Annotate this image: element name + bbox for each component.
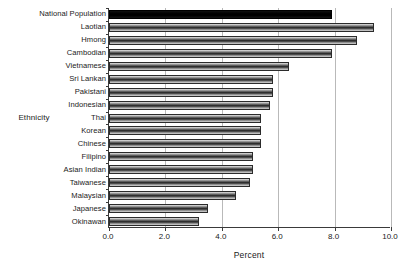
x-tick-mark	[391, 227, 392, 231]
bar	[109, 204, 208, 213]
bar	[109, 114, 261, 123]
y-tick-mark	[106, 150, 109, 151]
x-tick-mark	[335, 227, 336, 231]
x-tick-label: 4.0	[201, 232, 241, 241]
category-label-column: National PopulationLaotianHmongCambodian…	[10, 8, 106, 228]
y-tick-mark	[106, 34, 109, 35]
bar	[109, 88, 273, 97]
x-tick-mark	[278, 227, 279, 231]
x-tick-mark	[222, 227, 223, 231]
bar	[109, 75, 273, 84]
y-tick-mark	[106, 215, 109, 216]
category-label: Japanese	[10, 205, 106, 213]
category-label: Taiwanese	[10, 179, 106, 187]
x-tick-label: 2.0	[144, 232, 184, 241]
bar-chart: Ethnicity National PopulationLaotianHmon…	[0, 0, 413, 277]
bar	[109, 217, 199, 226]
y-tick-mark	[106, 163, 109, 164]
bar	[109, 36, 357, 45]
bar	[109, 10, 332, 19]
bar	[109, 23, 374, 32]
category-label: Hmong	[10, 36, 106, 44]
category-label: Malaysian	[10, 192, 106, 200]
bar	[109, 126, 261, 135]
x-tick-label: 10.0	[370, 232, 410, 241]
x-tick-mark	[165, 227, 166, 231]
bar	[109, 152, 253, 161]
bar	[109, 62, 289, 71]
category-label: National Population	[10, 10, 106, 18]
x-tick-label: 0.0	[88, 232, 128, 241]
y-tick-mark	[106, 137, 109, 138]
category-label: Filipino	[10, 153, 106, 161]
y-tick-mark	[106, 124, 109, 125]
category-label: Vietnamese	[10, 62, 106, 70]
bar	[109, 165, 253, 174]
y-tick-mark	[106, 99, 109, 100]
category-label: Laotian	[10, 23, 106, 31]
y-tick-mark	[106, 47, 109, 48]
bar	[109, 178, 250, 187]
category-label: Cambodian	[10, 49, 106, 57]
y-tick-mark	[106, 112, 109, 113]
category-label: Pakistani	[10, 88, 106, 96]
bar	[109, 191, 236, 200]
category-label: Thai	[10, 114, 106, 122]
y-tick-mark	[106, 86, 109, 87]
category-label: Asian Indian	[10, 166, 106, 174]
category-label: Chinese	[10, 140, 106, 148]
x-tick-label: 6.0	[257, 232, 297, 241]
y-tick-mark	[106, 60, 109, 61]
y-tick-mark	[106, 73, 109, 74]
bar	[109, 101, 270, 110]
bar	[109, 139, 261, 148]
y-tick-mark	[106, 176, 109, 177]
x-tick-mark	[109, 227, 110, 231]
category-label: Okinawan	[10, 218, 106, 226]
y-tick-mark	[106, 21, 109, 22]
gridline	[391, 8, 392, 227]
y-tick-mark	[106, 189, 109, 190]
category-label: Korean	[10, 127, 106, 135]
x-axis-title: Percent	[108, 250, 390, 260]
bar	[109, 49, 332, 58]
x-tick-label: 8.0	[314, 232, 354, 241]
plot-area	[108, 8, 390, 228]
category-label: Sri Lankan	[10, 75, 106, 83]
category-label: Indonesian	[10, 101, 106, 109]
y-tick-mark	[106, 202, 109, 203]
y-tick-mark	[106, 8, 109, 9]
